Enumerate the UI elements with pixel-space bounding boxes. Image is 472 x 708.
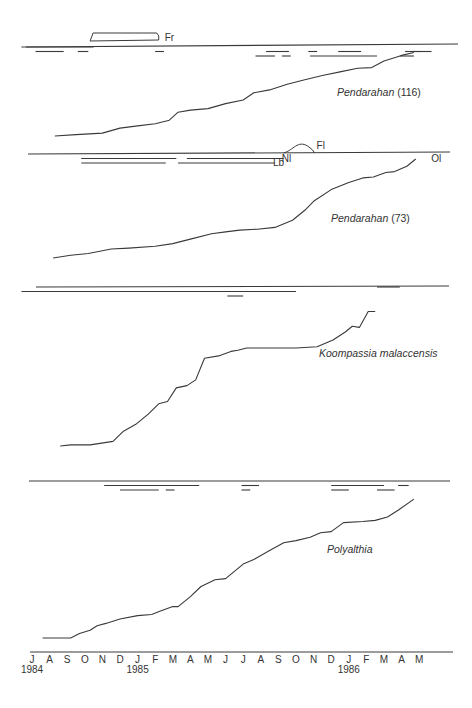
x-tick-label: M bbox=[204, 654, 212, 665]
growth-curve bbox=[60, 312, 375, 447]
x-year-label: 1984 bbox=[21, 664, 44, 675]
species-label: Polyalthia bbox=[327, 543, 373, 555]
x-tick-label: M bbox=[415, 654, 423, 665]
phenology-growth-figure: FrPendarahan (116)NlLbFlOlPendarahan (73… bbox=[0, 0, 472, 708]
x-axis: JASONDJFMAMJJASONDJFMAM198419851986 bbox=[21, 652, 453, 675]
species-label: Pendarahan (73) bbox=[331, 212, 410, 224]
x-tick-label: M bbox=[380, 654, 388, 665]
x-tick-label: J bbox=[223, 654, 228, 665]
flowering-arc bbox=[284, 144, 315, 153]
x-tick-label: M bbox=[169, 654, 177, 665]
x-tick-label: A bbox=[257, 654, 264, 665]
x-tick-label: N bbox=[310, 654, 317, 665]
x-tick-label: S bbox=[64, 654, 71, 665]
panel-4: Polyalthia bbox=[29, 481, 450, 638]
species-tree-number: (116) bbox=[394, 86, 421, 98]
x-tick-label: A bbox=[46, 654, 53, 665]
x-tick-label: O bbox=[81, 654, 89, 665]
x-tick-label: N bbox=[99, 654, 106, 665]
growth-curve bbox=[53, 159, 416, 258]
panel-1: FrPendarahan (116) bbox=[21, 32, 458, 136]
species-name: Pendarahan bbox=[337, 86, 394, 98]
x-tick-labels: JASONDJFMAMJJASONDJFMAM198419851986 bbox=[21, 654, 423, 675]
panel-2: NlLbFlOlPendarahan (73) bbox=[28, 140, 450, 258]
species-name: Koompassia malaccensis bbox=[319, 347, 438, 359]
species-name: Pendarahan bbox=[331, 212, 388, 224]
x-tick-label: F bbox=[152, 654, 158, 665]
growth-curve bbox=[43, 499, 414, 638]
annotation-lb: Lb bbox=[273, 157, 285, 168]
x-tick-label: D bbox=[328, 654, 335, 665]
species-label: Koompassia malaccensis bbox=[319, 347, 438, 359]
x-tick-label: F bbox=[363, 654, 369, 665]
species-name: Polyalthia bbox=[327, 543, 373, 555]
x-tick-label: A bbox=[398, 654, 405, 665]
x-year-label: 1986 bbox=[338, 664, 361, 675]
panel-baseline bbox=[28, 152, 450, 154]
x-tick-label: O bbox=[292, 654, 300, 665]
panels: FrPendarahan (116)NlLbFlOlPendarahan (73… bbox=[21, 32, 458, 638]
x-year-label: 1985 bbox=[126, 664, 149, 675]
annotation-fl: Fl bbox=[317, 140, 325, 151]
fruiting-period-box bbox=[90, 33, 159, 41]
x-tick-label: D bbox=[116, 654, 123, 665]
species-tree-number: (73) bbox=[388, 212, 410, 224]
annotation-ol: Ol bbox=[431, 153, 441, 164]
panel-3: Koompassia malaccensis bbox=[21, 286, 449, 446]
x-tick-label: J bbox=[241, 654, 246, 665]
species-label: Pendarahan (116) bbox=[337, 86, 421, 98]
x-tick-label: S bbox=[275, 654, 282, 665]
annotation-fr: Fr bbox=[165, 32, 175, 43]
x-tick-label: A bbox=[187, 654, 194, 665]
